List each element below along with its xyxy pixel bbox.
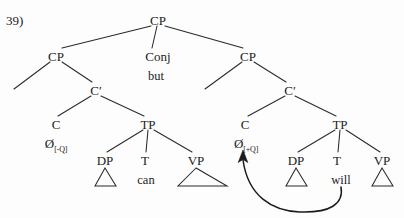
node-right-tp: TP — [332, 118, 347, 131]
branch-right-tp-to-vp — [346, 130, 380, 152]
node-conj: Conj — [145, 50, 170, 63]
example-number: 39) — [6, 14, 23, 27]
right-null-complementizer: Ø[+Q] — [234, 137, 258, 156]
right-q-feature: [+Q] — [243, 145, 258, 154]
branch-left-cbar-to-tp — [101, 96, 144, 116]
branch-right-tp-to-t — [338, 130, 340, 152]
node-right-c: C — [241, 118, 250, 131]
left-vp-triangle — [178, 168, 227, 186]
node-right-dp: DP — [288, 154, 305, 167]
node-left-tp: TP — [140, 118, 155, 131]
branch-root-to-right-cp — [165, 26, 243, 48]
node-right-cp: CP — [240, 50, 256, 63]
node-left-c: C — [52, 118, 61, 131]
branch-right-cbar-to-tp — [295, 96, 336, 116]
branch-right-cbar-to-c — [248, 96, 285, 116]
branch-left-cbar-to-c — [58, 96, 91, 116]
node-right-c-bar: C′ — [284, 84, 296, 97]
conj-word-but: but — [148, 70, 164, 83]
node-left-cp: CP — [48, 50, 64, 63]
branch-left-cp-to-cbar — [62, 62, 92, 82]
left-null-complementizer: Ø[-Q] — [45, 137, 67, 156]
right-dp-triangle — [286, 168, 307, 186]
branch-left-tp-to-t — [146, 130, 148, 152]
branch-right-cp-to-spec — [205, 62, 242, 89]
right-vp-triangle — [372, 168, 393, 186]
node-right-vp: VP — [374, 154, 391, 167]
node-left-c-bar: C′ — [90, 84, 102, 97]
left-q-feature: [-Q] — [54, 145, 67, 154]
syntax-tree-figure: 39) CP Conj but CP C′ C Ø[-Q] TP DP T ca… — [0, 0, 404, 218]
node-root-cp: CP — [150, 14, 166, 27]
node-right-t: T — [333, 154, 341, 167]
branch-left-cp-to-spec — [14, 62, 50, 89]
branch-root-to-left-cp — [62, 26, 151, 48]
node-left-t: T — [141, 154, 149, 167]
left-t-word-can: can — [137, 174, 154, 187]
node-left-dp: DP — [97, 154, 114, 167]
left-dp-triangle — [95, 168, 116, 186]
branch-root-to-conj — [152, 26, 157, 48]
branch-left-tp-to-vp — [154, 130, 192, 152]
branch-right-cp-to-cbar — [254, 62, 286, 82]
branch-left-tp-to-dp — [107, 130, 143, 152]
branch-right-tp-to-dp — [298, 130, 335, 152]
right-t-word-will: will — [331, 174, 350, 187]
left-null-symbol: Ø — [45, 136, 54, 151]
node-left-vp: VP — [188, 154, 205, 167]
right-null-symbol: Ø — [234, 136, 243, 151]
